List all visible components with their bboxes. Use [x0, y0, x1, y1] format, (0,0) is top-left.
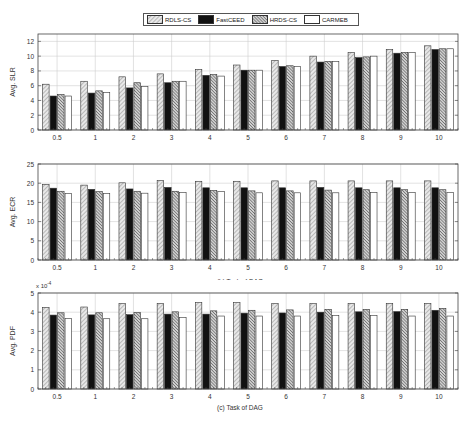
bar-rdls-cs: [157, 304, 163, 389]
y-tick-label: 0: [30, 386, 34, 393]
y-tick-label: 1: [30, 366, 34, 373]
bar-fastceed: [126, 315, 132, 389]
bar-hrds-cs: [134, 313, 140, 389]
bar-fastceed: [50, 315, 56, 389]
bar-hrds-cs: [439, 308, 445, 389]
y-tick-label: 5: [30, 290, 34, 297]
x-tick-label: 0.5: [53, 393, 62, 400]
x-axis-label: (c) Task of DAG: [217, 404, 263, 412]
bar-hrds-cs: [58, 313, 64, 389]
x-tick-label: 6: [284, 393, 288, 400]
x-tick-label: 3: [170, 393, 174, 400]
bar-fastceed: [394, 312, 400, 389]
bar-rdls-cs: [348, 304, 354, 389]
bar-carmeb: [65, 319, 71, 389]
bar-rdls-cs: [195, 303, 201, 389]
bar-hrds-cs: [210, 311, 216, 389]
bar-fastceed: [203, 314, 209, 389]
x-tick-label: 10: [435, 393, 443, 400]
x-tick-label: 7: [323, 393, 327, 400]
bar-hrds-cs: [172, 312, 178, 389]
bar-rdls-cs: [119, 304, 125, 389]
bar-rdls-cs: [310, 304, 316, 389]
bar-rdls-cs: [234, 303, 240, 389]
bar-fastceed: [241, 313, 247, 389]
x-tick-label: 2: [132, 393, 136, 400]
bar-fastceed: [317, 312, 323, 389]
y-multiplier-label: x 10-4: [36, 281, 52, 289]
bar-hrds-cs: [287, 310, 293, 389]
bar-fastceed: [88, 315, 94, 389]
bar-carmeb: [218, 316, 224, 389]
pdf-bar-chart: 0123450.512345678910Avg. PDF(c) Task of …: [0, 0, 476, 427]
y-tick-label: 2: [30, 347, 34, 354]
bar-fastceed: [165, 314, 171, 389]
bar-carmeb: [103, 319, 109, 389]
y-tick-label: 3: [30, 328, 34, 335]
bar-carmeb: [371, 316, 377, 389]
bar-carmeb: [332, 316, 338, 389]
bar-carmeb: [409, 316, 415, 389]
bar-carmeb: [256, 316, 262, 389]
bar-rdls-cs: [81, 307, 87, 389]
bar-fastceed: [279, 313, 285, 389]
bar-rdls-cs: [43, 307, 49, 389]
bar-fastceed: [356, 312, 362, 389]
bar-hrds-cs: [401, 309, 407, 389]
bar-carmeb: [141, 319, 147, 389]
x-tick-label: 5: [246, 393, 250, 400]
x-tick-label: 8: [361, 393, 365, 400]
bar-rdls-cs: [272, 304, 278, 389]
x-tick-label: 9: [399, 393, 403, 400]
y-tick-label: 4: [30, 309, 34, 316]
bar-carmeb: [294, 316, 300, 389]
y-axis-label: Avg. PDF: [9, 326, 17, 356]
x-tick-label: 4: [208, 393, 212, 400]
bar-hrds-cs: [96, 313, 102, 389]
bar-hrds-cs: [363, 309, 369, 389]
bar-hrds-cs: [249, 310, 255, 389]
bar-fastceed: [432, 310, 438, 389]
bar-carmeb: [447, 316, 453, 389]
bar-carmeb: [180, 318, 186, 389]
x-tick-label: 1: [93, 393, 97, 400]
bar-hrds-cs: [325, 309, 331, 389]
bar-rdls-cs: [386, 304, 392, 389]
bar-rdls-cs: [424, 304, 430, 389]
